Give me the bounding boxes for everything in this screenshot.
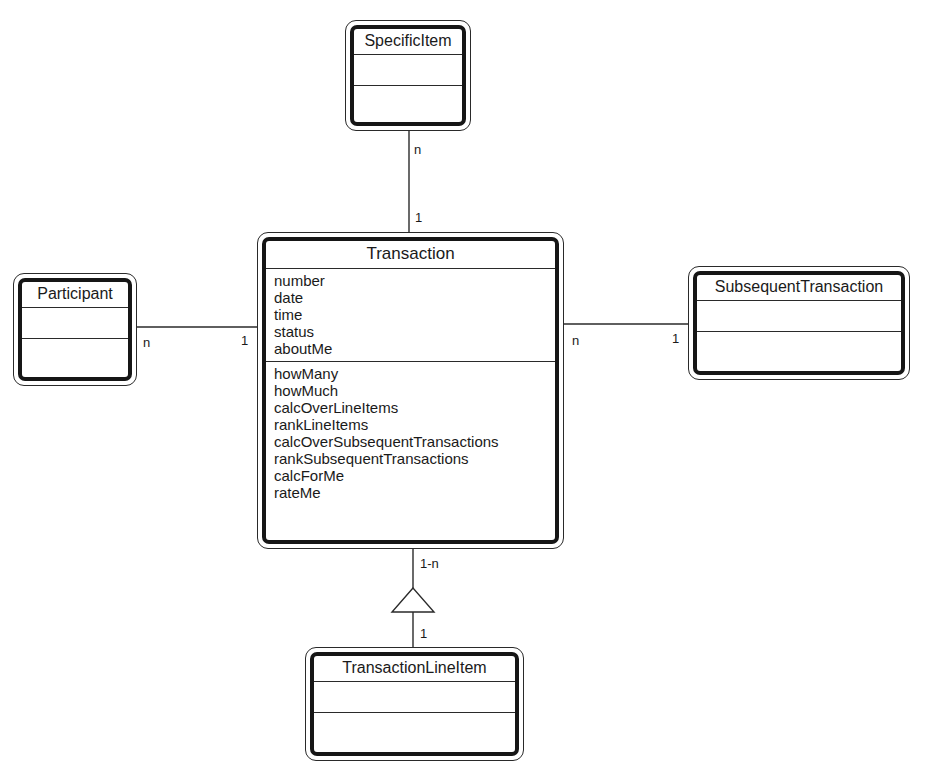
attributes-section [314, 682, 515, 713]
multiplicity-transaction-right-end: n [572, 333, 579, 348]
multiplicity-lineitem-end: 1 [420, 626, 427, 641]
attributes-section [697, 301, 901, 332]
multiplicity-specificitem-end: n [414, 142, 421, 157]
operation: howMuch [274, 382, 547, 399]
operations-section [22, 339, 128, 377]
attributes-section [354, 55, 462, 86]
multiplicity-transaction-top-end: 1 [415, 210, 422, 225]
operation: rankSubsequentTransactions [274, 450, 547, 467]
multiplicity-subsequent-end: 1 [672, 331, 679, 346]
operation: howMany [274, 365, 547, 382]
operation: rankLineItems [274, 416, 547, 433]
class-specific-item[interactable]: SpecificItem [345, 20, 471, 131]
class-name: SpecificItem [354, 29, 462, 55]
multiplicity-participant-end: n [143, 335, 150, 350]
attributes-section: number date time status aboutMe [266, 269, 555, 362]
operations-section: howMany howMuch calcOverLineItems rankLi… [266, 362, 555, 540]
attribute: date [274, 289, 547, 306]
operations-section [354, 86, 462, 122]
multiplicity-transaction-left-end: 1 [241, 333, 248, 348]
class-name: Transaction [266, 241, 555, 269]
attribute: time [274, 306, 547, 323]
class-participant[interactable]: Participant [13, 273, 137, 386]
attribute: aboutMe [274, 340, 547, 357]
operation: calcForMe [274, 467, 547, 484]
aggregation-triangle-icon [392, 588, 434, 612]
operations-section [697, 332, 901, 371]
class-subsequent-transaction[interactable]: SubsequentTransaction [688, 266, 910, 380]
class-name: Participant [22, 282, 128, 308]
class-name: SubsequentTransaction [697, 275, 901, 301]
attribute: number [274, 272, 547, 289]
class-transaction-line-item[interactable]: TransactionLineItem [305, 647, 524, 761]
operations-section [314, 713, 515, 752]
attribute: status [274, 323, 547, 340]
operation: rateMe [274, 484, 547, 501]
attributes-section [22, 308, 128, 339]
operation: calcOverLineItems [274, 399, 547, 416]
class-transaction[interactable]: Transaction number date time status abou… [257, 232, 564, 549]
operation: calcOverSubsequentTransactions [274, 433, 547, 450]
class-name: TransactionLineItem [314, 656, 515, 682]
multiplicity-transaction-bottom-end: 1-n [420, 556, 439, 571]
